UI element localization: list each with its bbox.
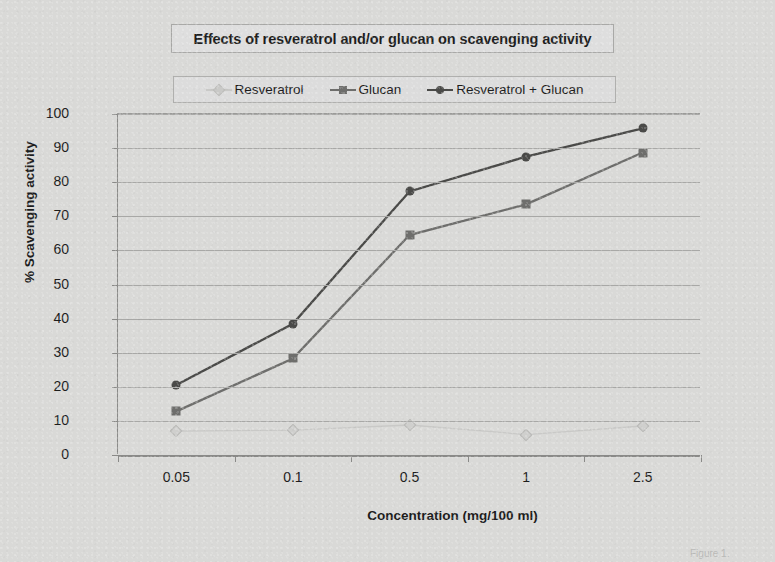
x-tick-mark-2 — [351, 455, 352, 462]
data-point-1-3[interactable] — [522, 200, 531, 209]
gridline-0 — [118, 455, 700, 457]
data-point-2-3[interactable] — [522, 152, 531, 161]
data-point-1-1[interactable] — [288, 354, 297, 363]
chart-legend: ResveratrolGlucanResveratrol + Glucan — [173, 76, 616, 103]
gridline-90 — [118, 148, 700, 149]
y-tick-label-70: 70 — [9, 207, 69, 223]
chart-title-box: Effects of resveratrol and/or glucan on … — [171, 24, 614, 53]
x-tick-label-4: 2.5 — [603, 469, 683, 485]
y-tick-label-100: 100 — [9, 105, 69, 121]
data-point-2-2[interactable] — [405, 187, 414, 196]
legend-label: Resveratrol — [235, 82, 304, 97]
data-point-1-0[interactable] — [172, 407, 181, 416]
gridline-20 — [118, 387, 700, 388]
data-point-1-2[interactable] — [405, 231, 414, 240]
gridline-60 — [118, 250, 700, 251]
y-tick-label-30: 30 — [9, 344, 69, 360]
y-tick-label-20: 20 — [9, 378, 69, 394]
legend-label: Resveratrol + Glucan — [456, 82, 583, 97]
x-tick-label-3: 1 — [486, 469, 566, 485]
gridline-80 — [118, 182, 700, 183]
gridline-30 — [118, 353, 700, 354]
y-tick-mark-80 — [112, 182, 118, 183]
y-tick-label-50: 50 — [9, 276, 69, 292]
y-tick-mark-10 — [112, 421, 118, 422]
chart-figure: Effects of resveratrol and/or glucan on … — [0, 0, 775, 562]
y-tick-mark-30 — [112, 353, 118, 354]
y-tick-mark-70 — [112, 216, 118, 217]
y-tick-label-10: 10 — [9, 412, 69, 428]
y-tick-label-0: 0 — [9, 446, 69, 462]
figure-caption: Figure 1. — [690, 548, 729, 559]
x-axis-title: Concentration (mg/100 ml) — [0, 508, 775, 523]
x-tick-mark-1 — [235, 455, 236, 462]
x-tick-mark-5 — [701, 455, 702, 462]
gridline-40 — [118, 319, 700, 320]
y-tick-label-60: 60 — [9, 241, 69, 257]
gridline-100 — [118, 114, 700, 115]
x-tick-mark-0 — [118, 455, 119, 462]
x-tick-mark-3 — [468, 455, 469, 462]
x-tick-mark-4 — [584, 455, 585, 462]
gridline-70 — [118, 216, 700, 217]
legend-item-resveratrol-glucan[interactable]: Resveratrol + Glucan — [427, 82, 583, 97]
page-title: Effects of resveratrol and/or glucan on … — [194, 31, 592, 47]
x-tick-label-2: 0.5 — [370, 469, 450, 485]
y-tick-mark-100 — [112, 114, 118, 115]
x-tick-label-0: 0.05 — [136, 469, 216, 485]
gridline-50 — [118, 285, 700, 286]
plot-area: 0.050.10.512.5 — [117, 113, 700, 454]
legend-marker-square-icon — [330, 84, 356, 96]
legend-item-resveratrol[interactable]: Resveratrol — [206, 82, 304, 97]
x-tick-label-1: 0.1 — [253, 469, 333, 485]
y-tick-mark-40 — [112, 319, 118, 320]
y-tick-mark-60 — [112, 250, 118, 251]
y-tick-mark-20 — [112, 387, 118, 388]
data-point-2-0[interactable] — [172, 381, 181, 390]
y-tick-label-90: 90 — [9, 139, 69, 155]
data-point-2-1[interactable] — [288, 319, 297, 328]
data-point-1-4[interactable] — [638, 148, 647, 157]
y-tick-label-80: 80 — [9, 173, 69, 189]
legend-marker-circle-icon — [427, 84, 453, 96]
series-line-2 — [176, 128, 642, 385]
legend-marker-diamond-icon — [206, 84, 232, 96]
data-point-2-4[interactable] — [638, 124, 647, 133]
y-tick-mark-50 — [112, 285, 118, 286]
legend-item-glucan[interactable]: Glucan — [330, 82, 402, 97]
y-tick-label-40: 40 — [9, 310, 69, 326]
y-tick-mark-90 — [112, 148, 118, 149]
gridline-10 — [118, 421, 700, 422]
legend-label: Glucan — [359, 82, 402, 97]
